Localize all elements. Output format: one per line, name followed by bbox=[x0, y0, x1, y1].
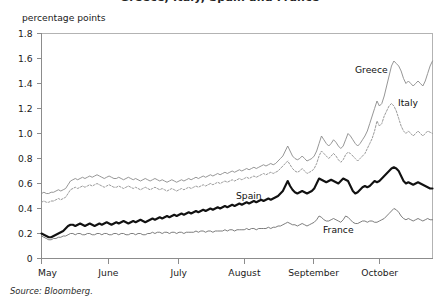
x-tick-label: August bbox=[228, 267, 261, 278]
y-tick-label: 0.2 bbox=[18, 228, 33, 239]
series-annotations: GreeceItalySpainFrance bbox=[236, 64, 418, 235]
series-label-spain: Spain bbox=[236, 190, 262, 201]
series-label-italy: Italy bbox=[398, 97, 418, 108]
chart-figure: Greece, Italy, Spain and France percenta… bbox=[0, 0, 448, 306]
y-tick-label: 1.8 bbox=[18, 28, 33, 39]
series-line-italy bbox=[42, 104, 433, 203]
y-axis-labels: 00.20.40.60.81.01.21.41.61.8 bbox=[18, 28, 33, 264]
x-tick-label: June bbox=[97, 267, 118, 278]
data-series bbox=[42, 61, 433, 240]
y-tick-label: 1.2 bbox=[18, 103, 33, 114]
series-line-greece bbox=[42, 61, 433, 194]
x-tick-label: October bbox=[361, 267, 398, 278]
series-line-spain bbox=[42, 167, 433, 237]
y-tick-label: 0.8 bbox=[18, 153, 33, 164]
y-tick-label: 0 bbox=[27, 253, 33, 264]
x-axis-labels: MayJuneJulyAugustSeptemberOctober bbox=[38, 267, 398, 278]
line-chart-plot: 00.20.40.60.81.01.21.41.61.8 MayJuneJuly… bbox=[0, 0, 448, 306]
y-tick-label: 0.6 bbox=[18, 178, 33, 189]
source-note: Source: Bloomberg. bbox=[10, 286, 93, 296]
x-tick-label: May bbox=[38, 267, 58, 278]
x-tick-label: July bbox=[169, 267, 187, 278]
y-tick-label: 1.0 bbox=[18, 128, 33, 139]
y-tick-label: 1.6 bbox=[18, 53, 33, 64]
x-tick-label: September bbox=[288, 267, 339, 278]
series-label-france: France bbox=[323, 224, 354, 235]
series-label-greece: Greece bbox=[355, 64, 388, 75]
y-tick-label: 1.4 bbox=[18, 78, 33, 89]
y-tick-label: 0.4 bbox=[18, 203, 33, 214]
